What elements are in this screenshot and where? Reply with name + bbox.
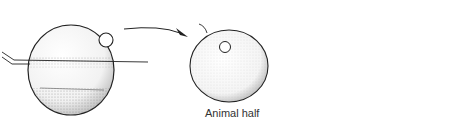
animal-half-label: Animal half [205, 107, 259, 119]
whole-egg [2, 25, 148, 118]
nucleus-icon [99, 33, 113, 47]
arrow-1 [124, 28, 188, 37]
diagram: Animal half [0, 0, 452, 136]
animal-half [190, 24, 268, 102]
nucleus-icon [220, 42, 231, 53]
